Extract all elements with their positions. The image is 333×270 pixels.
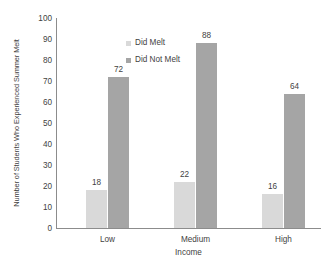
legend-swatch-icon [126, 41, 131, 46]
x-axis-tick-label-low: Low [68, 235, 148, 245]
y-axis-tick-label: 100 [38, 14, 52, 23]
y-axis-tick-label: 80 [43, 56, 52, 65]
bar-group-medium: 2288Medium [174, 18, 217, 228]
bar-value-label: 64 [290, 82, 299, 91]
x-axis-tick-label-medium: Medium [156, 235, 236, 245]
x-axis-tick-label-high: High [244, 235, 324, 245]
x-axis-line [56, 228, 321, 229]
plot-area: 1009080706050403020100 1872Low2288Medium… [56, 18, 321, 229]
legend-label: Did Not Melt [135, 55, 180, 65]
bar-low-did-melt: 18 [86, 190, 107, 228]
bar-value-label: 88 [202, 31, 211, 40]
bar-value-label: 72 [114, 65, 123, 74]
y-axis-tick-label: 0 [47, 224, 52, 233]
bar-low-did-not-melt: 72 [108, 77, 129, 228]
bar-value-label: 16 [268, 182, 277, 191]
bar-value-label: 18 [92, 178, 101, 187]
y-axis-tick-label: 70 [43, 77, 52, 86]
legend-label: Did Melt [135, 38, 165, 48]
bar-value-label: 22 [180, 170, 189, 179]
y-axis-tick-label: 40 [43, 140, 52, 149]
legend-swatch-icon [126, 58, 131, 63]
bar-high-did-not-melt: 64 [284, 94, 305, 228]
y-axis-tick-label: 20 [43, 182, 52, 191]
chart-legend: Did MeltDid Not Melt [126, 38, 180, 72]
bar-high-did-melt: 16 [262, 194, 283, 228]
y-axis-tick-label: 10 [43, 203, 52, 212]
bar-medium-did-melt: 22 [174, 182, 195, 228]
legend-item: Did Melt [126, 38, 180, 48]
y-axis-title: Number of Students Who Experienced Summe… [10, 8, 24, 238]
bar-group-low: 1872Low [86, 18, 129, 228]
y-axis-tick-label: 50 [43, 119, 52, 128]
bar-medium-did-not-melt: 88 [196, 43, 217, 228]
y-axis-line [56, 18, 57, 229]
legend-item: Did Not Melt [126, 55, 180, 65]
y-axis-tick-label: 90 [43, 35, 52, 44]
y-axis-tick-label: 60 [43, 98, 52, 107]
bar-group-high: 1664High [262, 18, 305, 228]
y-axis-tick-label: 30 [43, 161, 52, 170]
x-axis-title: Income [56, 248, 321, 258]
bar-chart: Number of Students Who Experienced Summe… [0, 0, 333, 270]
